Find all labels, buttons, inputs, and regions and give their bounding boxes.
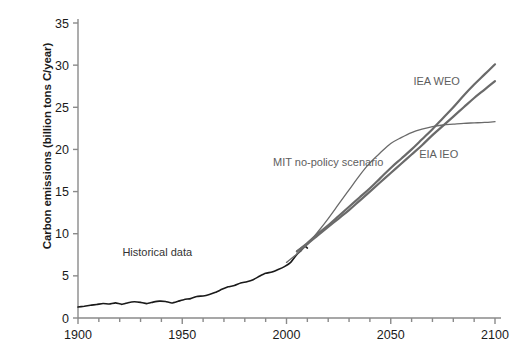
x-axis-ticks: 19001950200020502100	[64, 318, 509, 342]
x-tick-label: 2000	[273, 328, 301, 342]
y-tick-label: 25	[55, 101, 69, 115]
x-tick-label: 1950	[168, 328, 196, 342]
series-annotation-label: Historical data	[122, 246, 193, 258]
series-line	[78, 246, 307, 307]
series-line	[287, 122, 496, 263]
x-tick-label: 1900	[64, 328, 92, 342]
series-annotations: Historical dataMIT no-policy scenarioIEA…	[122, 75, 460, 257]
series-annotation-label: MIT no-policy scenario	[273, 156, 383, 168]
y-tick-label: 0	[62, 312, 69, 326]
y-tick-label: 20	[55, 143, 69, 157]
data-series	[78, 64, 495, 307]
y-tick-label: 30	[55, 59, 69, 73]
series-annotation-label: IEA WEO	[413, 75, 460, 87]
carbon-emissions-chart: Carbon emissions (billion tons C/year) 0…	[0, 0, 515, 360]
y-tick-label: 15	[55, 185, 69, 199]
y-tick-label: 35	[55, 17, 69, 31]
x-tick-label: 2050	[377, 328, 405, 342]
chart-plot-area: 05101520253035 19001950200020502100 Hist…	[0, 0, 515, 360]
axis-spines	[78, 19, 501, 318]
y-tick-label: 10	[55, 227, 69, 241]
y-axis-ticks: 05101520253035	[55, 17, 78, 326]
series-annotation-label: EIA IEO	[419, 148, 459, 160]
x-tick-label: 2100	[481, 328, 509, 342]
y-tick-label: 5	[62, 269, 69, 283]
